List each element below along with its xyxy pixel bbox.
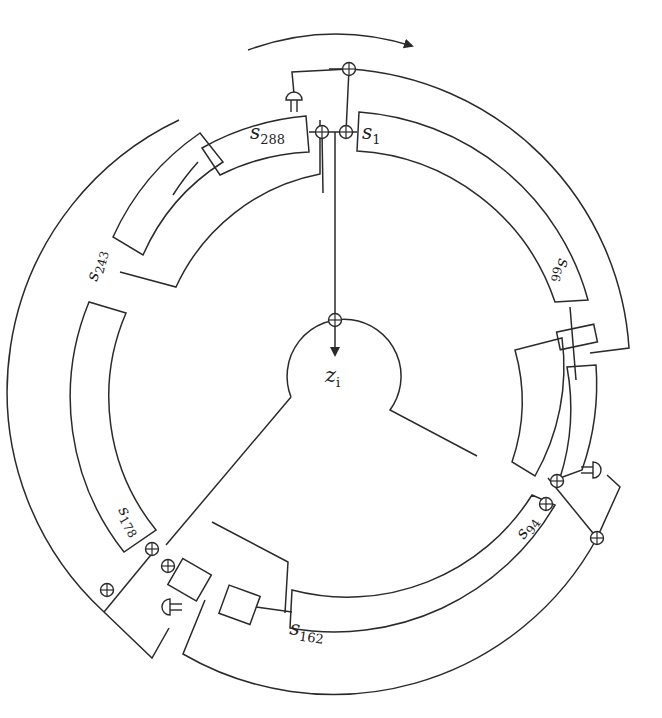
label-s94: s94 [511, 511, 544, 544]
xor-gate [316, 126, 329, 139]
label-s1: s1 [362, 120, 381, 147]
label-s162: s162 [288, 615, 327, 647]
label-s66: s66 [548, 257, 575, 285]
logic-box-bottom [219, 585, 260, 624]
xor-gate [551, 475, 564, 488]
xor-gate [329, 314, 342, 327]
label-s178: s178 [112, 503, 147, 541]
diagram-canvas: s1 s66 s94 s162 s178 s243 s288 zi [0, 0, 662, 718]
xor-gate [343, 63, 356, 76]
and-gate-left [162, 599, 182, 615]
register-band-c [70, 302, 156, 552]
feedback-arc-right [349, 69, 629, 353]
register-band-b2 [560, 365, 597, 478]
and-gate-top [286, 92, 302, 112]
output-hub [287, 319, 477, 456]
register-band-e [120, 120, 320, 287]
xor-gate [146, 543, 159, 556]
register-band-s94 [290, 495, 555, 632]
xor-gate [101, 584, 114, 597]
register-band-b [512, 338, 564, 476]
feedback-arc-left [7, 120, 179, 658]
label-s288: s288 [250, 120, 285, 147]
xor-gate [162, 560, 175, 573]
label-s243: s243 [82, 247, 112, 284]
xor-gate [540, 498, 553, 511]
xor-gate [340, 126, 353, 139]
register-band-d [113, 133, 223, 255]
register-band-d2 [173, 162, 198, 195]
xor-gate [591, 532, 604, 545]
label-output-zi: zi [324, 363, 340, 390]
lfsr-ring-diagram: s1 s66 s94 s162 s178 s243 s288 zi [0, 0, 662, 718]
direction-arrow [248, 34, 412, 50]
